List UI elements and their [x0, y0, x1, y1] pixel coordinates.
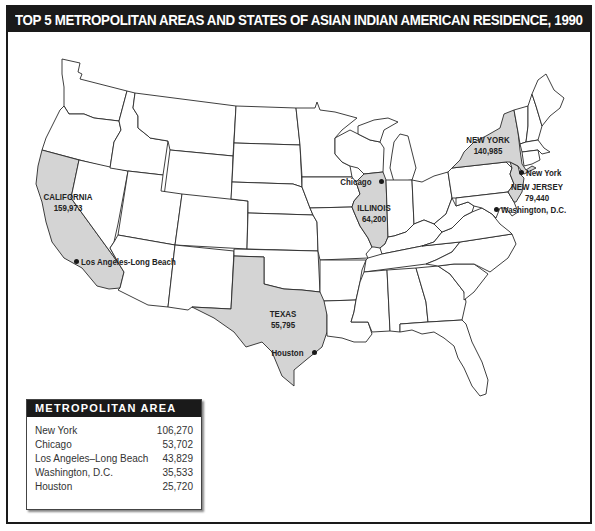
page-title: TOP 5 METROPOLITAN AREAS AND STATES OF A…	[15, 7, 583, 32]
state-label-california: CALIFORNIA 159,973	[42, 192, 95, 214]
city-dot-washington-dc	[494, 207, 499, 212]
legend-area: Washington, D.C.	[35, 466, 113, 480]
legend-area: Houston	[35, 480, 72, 494]
state-new-mexico	[168, 245, 234, 310]
city-label-washington-dc: Washington, D.C.	[501, 205, 566, 215]
state-value: 79,440	[511, 193, 564, 204]
city-label-chicago: Chicago	[341, 177, 372, 187]
state-name: TEXAS	[261, 309, 305, 320]
legend-value: 43,829	[162, 452, 193, 466]
city-label-houston: Houston	[271, 348, 303, 358]
title-bar: TOP 5 METROPOLITAN AREAS AND STATES OF A…	[8, 7, 590, 32]
legend-row: New York 106,270	[35, 424, 193, 438]
city-label-los-angeles: Los Angeles-Long Beach	[81, 257, 176, 267]
legend-rows: New York 106,270 Chicago 53,702 Los Ange…	[27, 417, 201, 494]
state-value: 55,795	[261, 320, 305, 331]
state-connecticut	[522, 150, 540, 166]
state-value: 64,200	[352, 214, 396, 225]
legend-value: 25,720	[162, 480, 193, 494]
state-label-texas: TEXAS 55,795	[261, 309, 305, 331]
city-dot-houston	[312, 350, 317, 355]
legend-row: Houston 25,720	[35, 480, 193, 494]
state-colorado	[175, 194, 248, 249]
legend-area: Los Angeles–Long Beach	[35, 452, 148, 466]
legend-value: 35,533	[162, 466, 193, 480]
city-label-new-york: New York	[526, 168, 561, 178]
state-north-dakota	[234, 106, 300, 145]
state-label-new-jersey: NEW JERSEY 79,440	[511, 182, 564, 204]
state-name: NEW JERSEY	[511, 182, 564, 193]
state-florida	[400, 320, 488, 396]
state-name: CALIFORNIA	[42, 192, 95, 203]
legend-value: 106,270	[157, 424, 193, 438]
legend-area: Chicago	[35, 438, 72, 452]
city-dot-new-york	[519, 170, 524, 175]
state-name: ILLINOIS	[352, 203, 396, 214]
legend-area: New York	[35, 424, 77, 438]
legend-value: 53,702	[162, 438, 193, 452]
map-frame: TOP 5 METROPOLITAN AREAS AND STATES OF A…	[6, 5, 592, 524]
state-kansas	[247, 213, 318, 251]
state-name: NEW YORK	[463, 135, 512, 146]
legend-row: Washington, D.C. 35,533	[35, 466, 193, 480]
state-label-new-york: NEW YORK 140,985	[463, 135, 512, 157]
city-dot-los-angeles	[74, 259, 79, 264]
state-value: 159,973	[42, 203, 95, 214]
legend-header: METROPOLITAN AREA	[27, 400, 201, 417]
metro-area-legend: METROPOLITAN AREA New York 106,270 Chica…	[26, 399, 202, 510]
legend-row: Los Angeles–Long Beach 43,829	[35, 452, 193, 466]
city-dot-chicago	[379, 179, 384, 184]
state-south-dakota	[232, 143, 302, 187]
legend-row: Chicago 53,702	[35, 438, 193, 452]
state-label-illinois: ILLINOIS 64,200	[352, 203, 396, 225]
state-washington	[62, 59, 127, 121]
state-value: 140,985	[463, 146, 512, 157]
